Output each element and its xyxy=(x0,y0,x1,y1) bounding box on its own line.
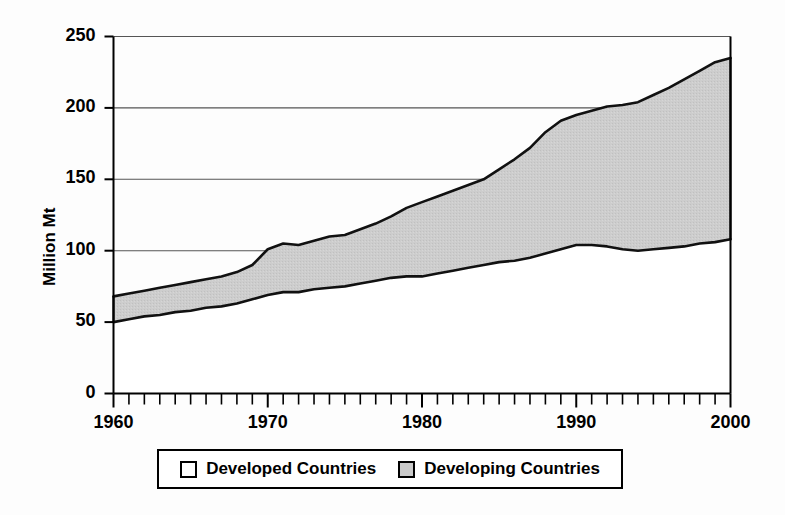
legend-label-developing: Developing Countries xyxy=(424,459,600,479)
plot-area xyxy=(0,0,785,515)
x-axis-ticks xyxy=(114,394,731,408)
legend-item-developed: Developed Countries xyxy=(180,459,376,479)
legend-label-developed: Developed Countries xyxy=(206,459,376,479)
y-axis-ticks xyxy=(105,37,114,394)
legend-swatch-developed xyxy=(180,461,197,478)
chart-figure: Million Mt 050100150200250 1960197019801… xyxy=(0,0,785,515)
legend-item-developing: Developing Countries xyxy=(398,459,600,479)
legend-swatch-developing xyxy=(398,461,415,478)
chart-legend: Developed Countries Developing Countries xyxy=(157,449,623,489)
